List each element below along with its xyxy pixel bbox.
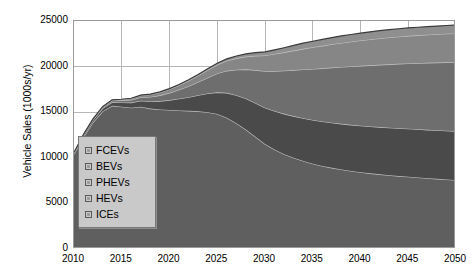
x-tick-label: 2030 — [242, 253, 286, 264]
x-tick-label: 2025 — [194, 253, 238, 264]
legend-swatch-icon — [85, 179, 92, 186]
legend-item-label: BEVs — [96, 161, 122, 172]
legend-item-label: ICEs — [96, 209, 119, 220]
legend-item-ices[interactable]: ICEs — [85, 206, 150, 222]
legend-swatch-icon — [85, 195, 92, 202]
chart-figure: Vehicle Sales (1000s/yr) 050001000015000… — [0, 0, 476, 276]
legend-swatch-icon — [85, 211, 92, 218]
x-tick-label: 2035 — [290, 253, 334, 264]
legend-item-fcevs[interactable]: FCEVs — [85, 142, 150, 158]
chart-legend[interactable]: FCEVsBEVsPHEVsHEVsICEs — [78, 136, 156, 228]
legend-item-label: PHEVs — [96, 177, 130, 188]
x-tick-label: 2050 — [433, 253, 476, 264]
legend-item-label: FCEVs — [96, 145, 129, 156]
legend-item-bevs[interactable]: BEVs — [85, 158, 150, 174]
x-tick-label: 2040 — [338, 253, 382, 264]
x-tick-label: 2045 — [385, 253, 429, 264]
legend-swatch-icon — [85, 147, 92, 154]
legend-item-label: HEVs — [96, 193, 123, 204]
legend-item-phevs[interactable]: PHEVs — [85, 174, 150, 190]
legend-swatch-icon — [85, 163, 92, 170]
legend-item-hevs[interactable]: HEVs — [85, 190, 150, 206]
x-tick-label: 2015 — [99, 253, 143, 264]
x-tick-label: 2010 — [51, 253, 95, 264]
x-tick-label: 2020 — [147, 253, 191, 264]
